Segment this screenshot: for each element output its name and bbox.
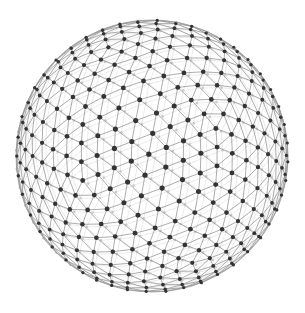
sphere-edge xyxy=(142,35,144,47)
sphere-edge xyxy=(72,120,74,139)
sphere-node xyxy=(214,243,218,247)
sphere-edge xyxy=(147,252,164,259)
sphere-edge xyxy=(144,277,160,281)
sphere-node xyxy=(80,222,85,227)
sphere-edge xyxy=(72,146,87,159)
sphere-edge xyxy=(219,188,222,206)
sphere-edge xyxy=(232,160,246,173)
sphere-edge xyxy=(59,111,62,132)
sphere-node xyxy=(220,87,222,89)
sphere-edge xyxy=(128,182,142,196)
sphere-node xyxy=(158,91,163,96)
sphere-node xyxy=(211,200,216,205)
sphere-edge xyxy=(183,88,203,90)
sphere-node xyxy=(15,154,18,157)
sphere-edge xyxy=(125,91,129,111)
sphere-edge xyxy=(122,44,138,52)
sphere-edge xyxy=(132,121,136,142)
sphere-node xyxy=(228,189,233,194)
sphere-node xyxy=(273,140,277,144)
sphere-edge xyxy=(104,132,122,139)
sphere-edge xyxy=(138,209,158,215)
sphere-edge xyxy=(175,213,195,222)
sphere-edge xyxy=(47,111,62,124)
sphere-edge xyxy=(195,216,200,232)
sphere-edge xyxy=(67,118,69,137)
sphere-node xyxy=(95,133,100,138)
sphere-node xyxy=(256,145,260,149)
sphere-node xyxy=(60,87,64,91)
sphere-node xyxy=(101,94,106,99)
sphere-node xyxy=(71,95,76,100)
sphere-node xyxy=(70,47,73,50)
sphere-edge xyxy=(217,85,230,100)
sphere-edge xyxy=(42,122,43,143)
sphere-edge xyxy=(119,108,136,121)
sphere-edge xyxy=(82,224,96,237)
sphere-edge xyxy=(87,165,88,184)
sphere-edge xyxy=(155,137,159,158)
sphere-node xyxy=(207,45,211,49)
sphere-node xyxy=(168,235,173,240)
sphere-edge xyxy=(162,167,166,188)
sphere-edge xyxy=(140,231,160,236)
sphere-node xyxy=(243,104,247,108)
sphere-edge xyxy=(180,103,197,109)
sphere-edge xyxy=(261,169,262,190)
sphere-edge xyxy=(157,113,171,127)
sphere-node xyxy=(245,226,249,230)
sphere-node xyxy=(29,188,33,192)
sphere-node xyxy=(129,159,134,164)
sphere-edge xyxy=(87,127,88,146)
sphere-edge xyxy=(58,132,59,151)
sphere-edge xyxy=(203,74,208,88)
sphere-node xyxy=(136,42,140,46)
sphere-edge xyxy=(114,265,134,267)
sphere-edge xyxy=(164,73,184,76)
sphere-edge xyxy=(46,124,47,145)
sphere-node xyxy=(154,110,159,115)
sphere-edge xyxy=(161,212,165,231)
sphere-edge xyxy=(136,100,140,121)
sphere-node xyxy=(45,99,49,103)
sphere-edge xyxy=(126,218,144,224)
sphere-edge xyxy=(166,90,183,97)
sphere-node xyxy=(136,213,141,218)
sphere-edge xyxy=(36,145,46,158)
sphere-node xyxy=(64,220,68,224)
sphere-edge xyxy=(190,220,209,229)
sphere-edge xyxy=(166,260,182,268)
sphere-edge xyxy=(138,196,141,216)
sphere-edge xyxy=(108,39,124,47)
sphere-edge xyxy=(107,203,124,209)
sphere-node xyxy=(162,249,167,254)
sphere-node xyxy=(270,201,274,205)
sphere-edge xyxy=(149,147,167,154)
sphere-edge xyxy=(114,142,131,149)
sphere-edge xyxy=(42,149,53,162)
sphere-edge xyxy=(222,213,226,230)
sphere-edge xyxy=(81,143,97,155)
sphere-node xyxy=(119,170,121,172)
sphere-node xyxy=(95,279,98,282)
sphere-edge xyxy=(166,160,184,167)
sphere-edge xyxy=(154,231,160,246)
sphere-edge xyxy=(28,130,29,151)
sphere-node xyxy=(77,235,81,239)
sphere-node xyxy=(208,256,212,260)
sphere-edge xyxy=(140,54,157,61)
sphere-edge xyxy=(170,120,188,127)
sphere-edge xyxy=(69,97,73,118)
sphere-node xyxy=(136,20,139,23)
sphere-edge xyxy=(134,252,137,265)
sphere-edge xyxy=(203,238,209,252)
sphere-edge xyxy=(129,91,146,103)
sphere-node xyxy=(37,221,41,225)
sphere-edge xyxy=(91,92,95,109)
sphere-edge xyxy=(149,261,152,274)
sphere-edge xyxy=(271,143,278,156)
sphere-node xyxy=(284,179,287,182)
sphere-edge xyxy=(128,161,132,182)
sphere-node xyxy=(215,101,217,103)
sphere-node xyxy=(224,210,229,215)
